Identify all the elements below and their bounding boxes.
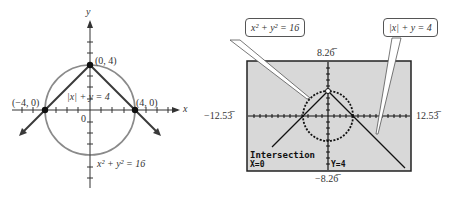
intersection-cursor-icon bbox=[326, 89, 331, 94]
equation-abs-label: |x| + y = 4 bbox=[67, 91, 110, 102]
x-axis-arrow-icon bbox=[172, 107, 180, 113]
window-ymin-label: −8.26̅ bbox=[315, 173, 338, 184]
point-label-0-4: (0, 4) bbox=[95, 55, 117, 66]
equation-circle-label: x² + y² = 16 bbox=[97, 158, 145, 169]
status-x-value: X=0 bbox=[250, 161, 264, 169]
y-axis-arrow-icon bbox=[87, 20, 93, 28]
callout-circle-equation: x² + y² = 16 bbox=[245, 18, 305, 37]
window-xmax-label: 12.53̅ bbox=[416, 110, 439, 121]
window-ymax-label: 8.26̅ bbox=[317, 47, 335, 58]
y-axis-label: y bbox=[86, 6, 90, 17]
window-xmin-label: −12.53̅ bbox=[204, 110, 232, 121]
left-graph: y x 0 (0, 4) (−4, 0) (4, 0) |x| + y = 4 … bbox=[0, 0, 200, 199]
calculator-figure: x² + y² = 16 |x| + y = 4 8.26̅ −8.26̅ −1… bbox=[200, 0, 449, 199]
x-axis-label: x bbox=[183, 103, 187, 114]
point-0-4 bbox=[87, 62, 93, 68]
point-label-4-0: (4, 0) bbox=[136, 97, 158, 108]
point-neg4-0 bbox=[42, 107, 48, 113]
status-y-value: Y=4 bbox=[331, 161, 345, 169]
point-label-neg4-0: (−4, 0) bbox=[12, 97, 39, 108]
origin-label: 0 bbox=[81, 113, 86, 124]
callout-abs-equation: |x| + y = 4 bbox=[383, 18, 438, 37]
status-title: Intersection bbox=[250, 151, 315, 159]
